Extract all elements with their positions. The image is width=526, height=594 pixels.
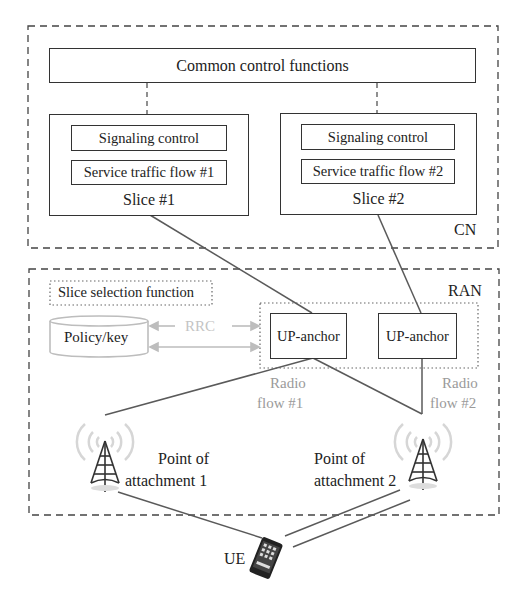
policy-label: Policy/key — [64, 330, 128, 345]
phone-icon — [249, 536, 284, 579]
flow-lines — [105, 215, 422, 547]
up-anchor-2-box: UP-anchor — [378, 313, 457, 359]
attachment-2-line1: Point of — [314, 451, 365, 467]
ue-label: UE — [224, 551, 245, 567]
slice-1-signaling-label: Signaling control — [99, 130, 199, 147]
radio-flow-2-line2: flow #2 — [430, 396, 476, 411]
radio-flow-1-line2: flow #1 — [257, 396, 303, 411]
tower-icon-2 — [395, 424, 451, 490]
slice-2-signaling-label: Signaling control — [328, 129, 428, 146]
up-anchor-1-label: UP-anchor — [277, 328, 340, 345]
slice-1-traffic-label: Service traffic flow #1 — [84, 164, 215, 181]
slice-1-label: Slice #1 — [123, 191, 175, 209]
attachment-1-line1: Point of — [158, 451, 209, 467]
radio-flow-2-line1: Radio — [442, 376, 478, 391]
ran-label: RAN — [448, 283, 482, 299]
common-control-label: Common control functions — [176, 57, 348, 75]
slice-2-traffic-label: Service traffic flow #2 — [313, 163, 444, 180]
up-anchor-1-box: UP-anchor — [270, 313, 347, 359]
common-control-box: Common control functions — [49, 48, 476, 83]
slice-2-traffic-box: Service traffic flow #2 — [301, 159, 455, 184]
attachment-2-line2: attachment 2 — [314, 473, 396, 489]
slice-2-label: Slice #2 — [353, 190, 405, 208]
slice-1-traffic-box: Service traffic flow #1 — [71, 160, 227, 185]
slice-2-signaling-box: Signaling control — [301, 124, 455, 150]
cn-label: CN — [454, 222, 476, 238]
radio-flow-1-line1: Radio — [270, 376, 306, 391]
attachment-1-line2: attachment 1 — [125, 473, 207, 489]
rrc-label: RRC — [185, 319, 215, 334]
up-anchor-2-label: UP-anchor — [386, 328, 449, 345]
slice-selection-label: Slice selection function — [58, 285, 194, 300]
slice-1-signaling-box: Signaling control — [71, 125, 227, 151]
